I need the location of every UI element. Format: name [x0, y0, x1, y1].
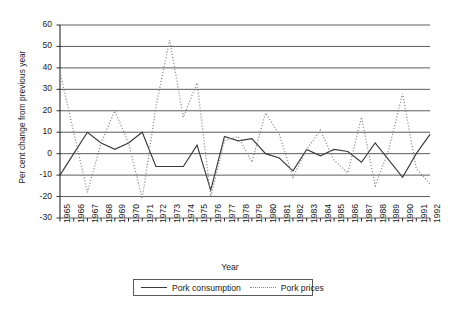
- y-tick-label: 10: [28, 127, 52, 136]
- x-axis-title: Year: [200, 262, 260, 272]
- x-tick-label: 1980: [269, 204, 278, 223]
- x-tick-label: 1967: [91, 204, 100, 223]
- x-tick-label: 1987: [365, 204, 374, 223]
- x-tick-label: 1965: [63, 204, 72, 223]
- x-tick-label: 1970: [132, 204, 141, 223]
- y-tick-label: 60: [28, 20, 52, 29]
- y-tick-label: 20: [28, 106, 52, 115]
- x-tick-label: 1969: [118, 204, 127, 223]
- legend-item-pork-consumption: Pork consumption: [141, 280, 241, 295]
- chart-legend: Pork consumption Pork prices: [133, 279, 313, 296]
- x-tick-label: 1991: [420, 204, 429, 223]
- y-tick-label: -10: [28, 170, 52, 179]
- y-tick-label: -20: [28, 192, 52, 201]
- x-tick-label: 1972: [159, 204, 168, 223]
- y-axis-title: Per cent change from previous year: [17, 17, 27, 217]
- x-tick-label: 1985: [337, 204, 346, 223]
- x-tick-label: 1989: [392, 204, 401, 223]
- x-tick-label: 1979: [255, 204, 264, 223]
- legend-label-pork-prices: Pork prices: [281, 283, 324, 293]
- x-tick-label: 1983: [310, 204, 319, 223]
- legend-dotted-line-icon: [250, 287, 276, 288]
- x-tick-label: 1992: [433, 204, 442, 223]
- legend-item-pork-prices: Pork prices: [250, 280, 324, 295]
- x-tick-label: 1978: [242, 204, 251, 223]
- y-tick-label: 30: [28, 84, 52, 93]
- x-tick-label: 1982: [296, 204, 305, 223]
- y-tick-label: 0: [28, 149, 52, 158]
- x-tick-label: 1971: [146, 204, 155, 223]
- x-tick-label: 1968: [105, 204, 114, 223]
- y-tick-label: 40: [28, 63, 52, 72]
- x-tick-label: 1981: [283, 204, 292, 223]
- x-tick-label: 1966: [77, 204, 86, 223]
- x-tick-label: 1990: [406, 204, 415, 223]
- series-line-1: [60, 132, 430, 190]
- x-tick-label: 1986: [351, 204, 360, 223]
- x-tick-label: 1988: [379, 204, 388, 223]
- chart-figure: Per cent change from previous year 60504…: [0, 0, 449, 315]
- x-tick-label: 1973: [173, 204, 182, 223]
- legend-label-pork-consumption: Pork consumption: [172, 283, 241, 293]
- x-tick-label: 1974: [187, 204, 196, 223]
- x-tick-label: 1975: [200, 204, 209, 223]
- y-tick-label: 50: [28, 41, 52, 50]
- legend-solid-line-icon: [141, 287, 167, 288]
- y-tick-label: -30: [28, 213, 52, 222]
- x-tick-label: 1976: [214, 204, 223, 223]
- x-tick-label: 1977: [228, 204, 237, 223]
- x-tick-label: 1984: [324, 204, 333, 223]
